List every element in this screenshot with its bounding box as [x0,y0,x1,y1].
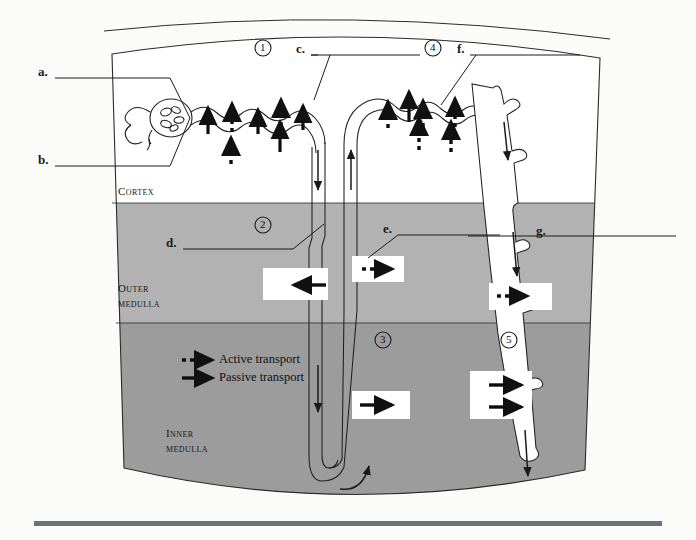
kidney-nephron-diagram [0,0,696,540]
circled-number-2: 2 [260,218,266,230]
zone-outer-medulla [0,203,696,323]
label-letter-a: a. [38,64,48,80]
label-letter-b: b. [38,152,48,168]
label-letter-f: f. [457,41,465,57]
label-letter-e: e. [383,221,392,237]
circled-number-1: 1 [260,41,266,53]
page-bottom-rule [34,521,662,526]
marker-box-5 [470,371,532,419]
circled-number-3: 3 [380,333,386,345]
zone-label-inner-medulla-line2: medulla [166,442,208,454]
legend-label-passive: Passive transport [219,370,304,385]
zone-label-inner-medulla-line1: Inner [166,427,193,439]
label-letter-d: d. [166,235,176,251]
label-letter-c: c. [296,41,305,57]
zone-label-cortex: Cortex [118,185,154,197]
zone-bands [0,0,696,540]
legend-label-active: Active transport [219,352,300,367]
kidney-capsule-line [104,20,610,39]
circled-number-4: 4 [430,41,436,53]
figure-canvas: a. b. c. d. e. f. g. Cortex Outer medull… [0,0,696,540]
zone-inner-medulla [0,323,696,540]
zone-label-outer-medulla-line2: medulla [118,297,160,309]
circled-number-5: 5 [506,333,512,345]
label-letter-g: g. [536,223,546,239]
zone-label-outer-medulla-line1: Outer [118,282,149,294]
zone-cortex [0,0,696,203]
